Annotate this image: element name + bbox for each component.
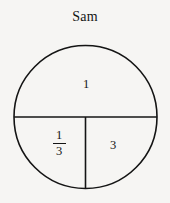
fraction-denominator: 3: [53, 144, 66, 158]
slice-label-bottom-left: 1 3: [44, 129, 74, 158]
fraction-circle-figure: Sam 1 1 3 3: [0, 0, 170, 203]
circle-diagram: [0, 0, 170, 203]
fraction-one-third: 1 3: [53, 129, 66, 157]
slice-label-bottom-right: 3: [100, 139, 126, 152]
fraction-numerator: 1: [53, 129, 66, 143]
slice-label-top: 1: [66, 78, 106, 91]
